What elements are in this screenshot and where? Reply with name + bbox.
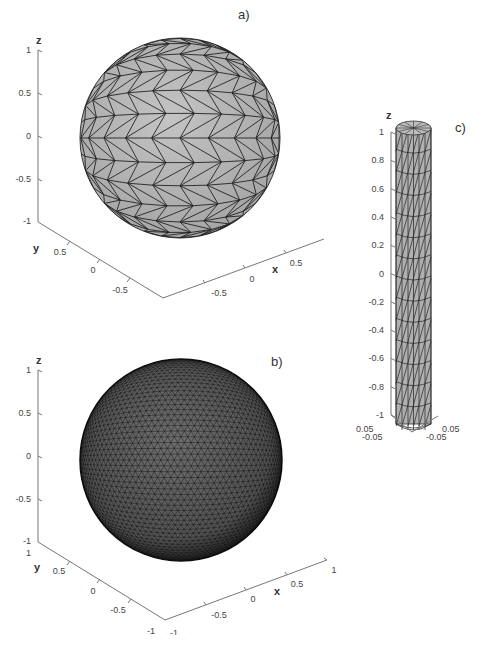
z-tick: 1 <box>26 365 31 375</box>
x-axis-line <box>163 239 324 298</box>
y-axis-ticks: 1 0.5 0 -0.5 -1 <box>26 548 155 635</box>
y-tick: 0.5 <box>53 566 66 576</box>
plot-a: 1 0.5 0 -0.5 -1 z 0.5 0 -0.5 y -0.5 0 0.… <box>0 0 340 310</box>
x-tick: 0.5 <box>290 258 303 268</box>
y-tick: -0.5 <box>110 605 126 615</box>
y-axis-ticks: 0.5 0 -0.5 <box>54 241 130 295</box>
panel-label-c: c) <box>455 120 466 135</box>
x-tick: 0 <box>249 274 254 284</box>
x-tick: -0.05 <box>426 432 447 442</box>
z-tick: -0.2 <box>368 297 384 307</box>
z-tick: -1 <box>23 216 31 226</box>
z-tick: 0 <box>26 451 31 461</box>
x-axis-label: x <box>274 585 281 597</box>
plot-b: 1 0.5 0 -0.5 -1 z 1 0.5 0 -0.5 -1 y -1 -… <box>0 320 340 635</box>
z-tick: -0.5 <box>15 174 31 184</box>
z-tick: -1 <box>23 536 31 546</box>
x-tick: 1 <box>331 565 336 575</box>
z-axis-label: z <box>386 110 392 121</box>
z-tick: -0.5 <box>15 494 31 504</box>
panel-label-a: a) <box>238 7 250 22</box>
y-axis-label: y <box>34 561 41 573</box>
z-tick: -0.8 <box>368 382 384 392</box>
y-tick: 0 <box>90 265 95 275</box>
z-tick: 0.5 <box>18 408 31 418</box>
z-axis-label: z <box>36 34 42 46</box>
plot-c: z 10.80.60.40.20-0.2-0.4-0.6-0.8-1 0.05 … <box>340 110 478 450</box>
y-tick: 1 <box>26 548 31 558</box>
z-tick: 0.2 <box>371 240 384 250</box>
z-tick: 1 <box>26 45 31 55</box>
z-tick: -1 <box>376 410 384 420</box>
panel-b-fine-sphere: 1 0.5 0 -0.5 -1 z 1 0.5 0 -0.5 -1 y -1 -… <box>0 320 340 635</box>
x-tick: 0 <box>250 594 255 604</box>
x-axis-label: x <box>272 263 279 275</box>
z-axis-label: z <box>36 354 42 366</box>
y-tick: 0 <box>90 586 95 596</box>
z-tick: 0.8 <box>371 155 384 165</box>
z-tick: 1 <box>379 127 384 137</box>
panel-c-cylinder: z 10.80.60.40.20-0.2-0.4-0.6-0.8-1 0.05 … <box>340 110 478 450</box>
z-tick: 0.5 <box>18 88 31 98</box>
y-tick: 0.5 <box>54 247 67 257</box>
y-tick: -0.05 <box>362 432 383 442</box>
z-tick: 0.4 <box>371 212 384 222</box>
x-axis-ticks: -1 -0.5 0 0.5 1 <box>170 558 337 635</box>
x-axis-ticks: -0.5 0 0.5 <box>203 250 302 298</box>
x-tick: -0.5 <box>211 610 227 620</box>
panel-a-coarse-sphere: 1 0.5 0 -0.5 -1 z 0.5 0 -0.5 y -0.5 0 0.… <box>0 0 340 310</box>
figure-caption-cutoff <box>0 634 478 645</box>
z-tick: -0.6 <box>368 353 384 363</box>
z-tick: 0 <box>379 269 384 279</box>
z-tick: -0.4 <box>368 325 384 335</box>
y-axis-label: y <box>33 242 40 254</box>
y-axis-line <box>38 222 163 298</box>
x-tick: -0.5 <box>211 288 227 298</box>
panel-label-b: b) <box>271 354 283 369</box>
y-tick: -0.5 <box>112 285 128 295</box>
z-tick: 0.6 <box>371 184 384 194</box>
x-tick: 0.5 <box>291 579 304 589</box>
z-tick: 0 <box>26 131 31 141</box>
